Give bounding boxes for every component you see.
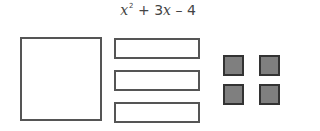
x-var: x	[120, 2, 128, 18]
x-tile	[114, 38, 200, 59]
negative-unit-tile	[259, 84, 280, 105]
x-tile	[114, 102, 200, 123]
x-tile	[114, 70, 200, 91]
negative-unit-tile	[223, 55, 244, 76]
term-3x-coef: + 3	[134, 2, 164, 18]
term-constant: – 4	[171, 2, 196, 18]
polynomial-expression: x2 + 3x – 4	[113, 2, 203, 18]
x-var: x	[163, 2, 171, 18]
negative-unit-tile	[259, 55, 280, 76]
negative-unit-tile	[223, 84, 244, 105]
x-squared-tile	[20, 37, 102, 121]
